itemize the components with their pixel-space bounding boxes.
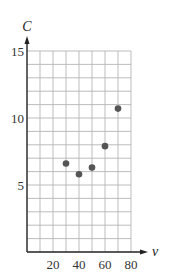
y-axis-arrow-icon	[25, 36, 30, 44]
y-tick-label: 5	[18, 178, 25, 193]
x-axis-label: v	[152, 244, 159, 259]
axes: C v	[22, 19, 159, 259]
y-tick-label: 10	[11, 111, 24, 126]
data-point	[115, 105, 122, 112]
data-point	[76, 171, 83, 178]
y-axis-label: C	[22, 19, 32, 34]
grid	[27, 51, 131, 252]
data-point	[102, 143, 109, 150]
scatter-chart: C v 2040608051015	[0, 0, 171, 279]
x-tick-label: 80	[125, 257, 138, 272]
x-axis-arrow-icon	[140, 250, 148, 255]
data-point	[89, 164, 96, 171]
data-point	[63, 160, 70, 167]
y-tick-label: 15	[11, 44, 24, 59]
x-tick-label: 40	[73, 257, 86, 272]
x-tick-label: 20	[47, 257, 60, 272]
x-tick-label: 60	[99, 257, 112, 272]
